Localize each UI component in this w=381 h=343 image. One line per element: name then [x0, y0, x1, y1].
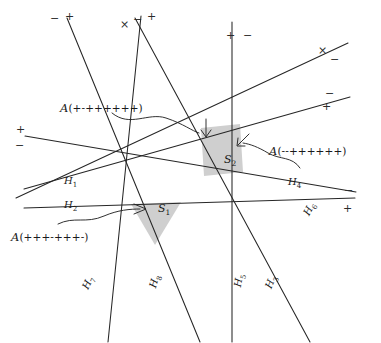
shaded-region-s2: [201, 124, 243, 176]
covector-label-top-left: A(+-++++++): [60, 101, 143, 115]
hyperplane-line-7: [67, 18, 200, 342]
hyperplane-arrangement-figure: S1 S2 H1 H2 H4 H6 H7 H8 H5 H3 A(+-++++++…: [0, 0, 381, 343]
covector-label-bottom-left: A(+++-+++-): [11, 230, 88, 244]
sign-marker-12: +: [16, 124, 25, 135]
sign-marker-15: +: [343, 203, 352, 214]
region-label-s1: S1: [158, 202, 170, 217]
sign-marker-14: −: [344, 185, 353, 196]
sign-marker-3: ×: [120, 19, 129, 30]
hyperplane-label-h4: H4: [288, 176, 301, 190]
pointer-curve-top-left: [112, 113, 199, 133]
sign-marker-7: −: [243, 30, 252, 41]
hyperplane-label-h5: H5: [232, 273, 248, 288]
sign-marker-9: −: [330, 54, 339, 65]
sign-marker-5: +: [147, 11, 156, 22]
sign-marker-11: +: [322, 101, 331, 112]
hyperplane-label-h1: H1: [64, 175, 77, 189]
sign-marker-13: −: [15, 140, 24, 151]
sign-marker-10: −: [325, 88, 334, 99]
shaded-region-s1: [131, 202, 181, 245]
sign-marker-2: −: [50, 13, 59, 24]
sign-marker-1: +: [65, 11, 74, 22]
sign-marker-6: +: [226, 30, 235, 41]
covector-label-right: A(--++++++): [269, 144, 346, 158]
region-label-s2: S2: [224, 153, 236, 168]
sign-marker-8: ×: [318, 45, 327, 56]
hyperplane-label-h2: H2: [64, 199, 77, 213]
sign-marker-4: −: [133, 14, 142, 25]
hyperplane-line-8: [108, 16, 141, 342]
